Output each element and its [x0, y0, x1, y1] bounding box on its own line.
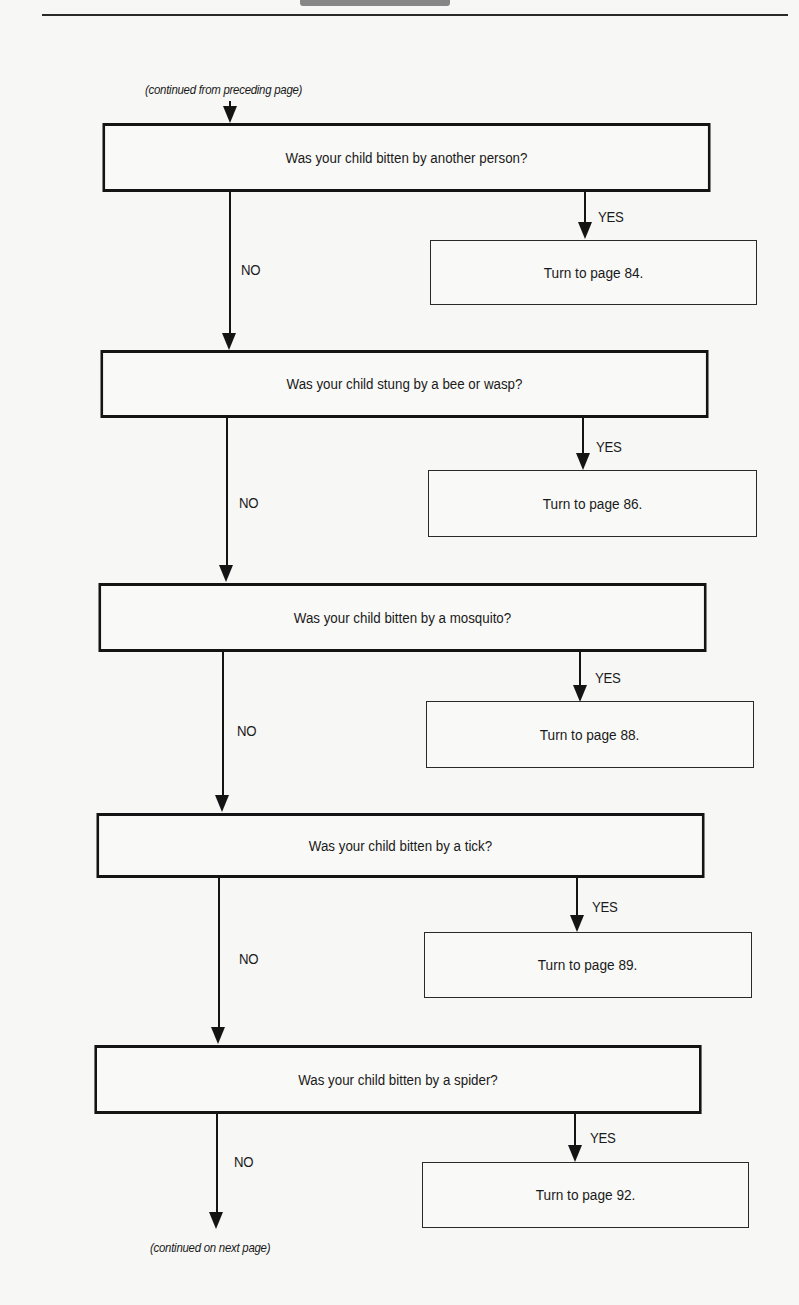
no-arrow-line-5	[216, 1114, 218, 1214]
no-arrow-icon-2	[219, 565, 233, 582]
cropped-header-text	[300, 0, 450, 6]
yes-arrow-line-5	[574, 1114, 576, 1146]
question-box-1: Was your child bitten by another person?	[102, 123, 710, 192]
answer-box-2: Turn to page 86.	[428, 470, 757, 537]
yes-label-5: YES	[590, 1129, 619, 1146]
yes-arrow-icon-1	[578, 222, 592, 239]
yes-arrow-icon-5	[568, 1145, 582, 1162]
yes-label-3: YES	[595, 669, 624, 686]
yes-arrow-line-2	[582, 418, 584, 454]
no-arrow-line-3	[222, 652, 224, 797]
answer-box-4: Turn to page 89.	[424, 932, 752, 998]
yes-arrow-line-3	[579, 652, 581, 686]
continued-on-note: (continued on next page)	[150, 1240, 287, 1255]
continued-from-note: (continued from preceding page)	[145, 82, 324, 97]
answer-text: Turn to page 86.	[543, 495, 643, 513]
no-label-1: NO	[241, 261, 263, 278]
no-arrow-line-2	[226, 418, 228, 567]
yes-label-2: YES	[596, 438, 625, 455]
header-rule	[42, 14, 788, 16]
question-text: Was your child bitten by a tick?	[309, 837, 492, 855]
no-arrow-icon-3	[215, 795, 229, 812]
no-arrow-icon-1	[222, 333, 236, 350]
yes-label-4: YES	[592, 898, 621, 915]
answer-text: Turn to page 92.	[536, 1186, 636, 1204]
answer-box-1: Turn to page 84.	[430, 240, 757, 305]
question-box-2: Was your child stung by a bee or wasp?	[100, 350, 708, 418]
yes-arrow-icon-4	[570, 915, 584, 932]
answer-box-3: Turn to page 88.	[426, 701, 754, 768]
no-arrow-line-4	[218, 878, 220, 1029]
question-box-3: Was your child bitten by a mosquito?	[98, 583, 706, 652]
question-text: Was your child stung by a bee or wasp?	[287, 375, 523, 393]
answer-box-5: Turn to page 92.	[422, 1162, 749, 1228]
yes-arrow-icon-2	[576, 453, 590, 470]
no-label-4: NO	[239, 950, 261, 967]
question-box-4: Was your child bitten by a tick?	[96, 813, 704, 878]
question-text: Was your child bitten by a spider?	[298, 1071, 498, 1089]
no-label-3: NO	[237, 722, 259, 739]
question-text: Was your child bitten by another person?	[286, 149, 528, 167]
no-arrow-icon-5	[209, 1212, 223, 1229]
answer-text: Turn to page 89.	[538, 956, 638, 974]
no-label-5: NO	[234, 1153, 256, 1170]
question-box-5: Was your child bitten by a spider?	[94, 1045, 701, 1114]
yes-arrow-line-1	[584, 192, 586, 222]
entry-arrow-icon	[223, 106, 237, 123]
no-label-2: NO	[239, 494, 261, 511]
no-arrow-line-1	[229, 192, 231, 334]
yes-label-1: YES	[598, 208, 627, 225]
yes-arrow-line-4	[576, 878, 578, 916]
yes-arrow-icon-3	[573, 685, 587, 702]
answer-text: Turn to page 84.	[544, 264, 644, 282]
no-arrow-icon-4	[211, 1027, 225, 1044]
answer-text: Turn to page 88.	[540, 726, 640, 744]
question-text: Was your child bitten by a mosquito?	[294, 609, 511, 627]
